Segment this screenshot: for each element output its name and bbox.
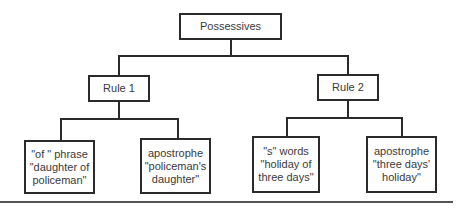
node-rule-2-label: Rule 2 <box>332 81 364 94</box>
node-text-line: "daughter of <box>30 161 90 174</box>
connector-to-rule1 <box>118 55 120 75</box>
bottom-divider <box>0 201 453 203</box>
connector-rule2-horizontal <box>286 117 403 119</box>
node-text-line: policeman" <box>32 174 86 187</box>
node-apostrophe-policeman: apostrophe "policeman's daughter" <box>140 138 211 194</box>
node-text-line: apostrophe <box>148 147 203 160</box>
node-possessives: Possessives <box>179 13 282 40</box>
connector-to-apostrophe-policeman <box>177 118 179 138</box>
connector-level1-horizontal <box>118 55 349 57</box>
node-text-line: "three days' <box>373 158 430 171</box>
node-text-line: "policeman's <box>145 160 207 173</box>
node-text-line: daughter" <box>152 173 199 186</box>
node-rule-2: Rule 2 <box>317 74 379 101</box>
node-text-line: apostrophe <box>374 145 429 158</box>
connector-to-s-words <box>286 117 288 136</box>
connector-rule1-horizontal <box>60 118 179 120</box>
connector-to-rule2 <box>347 55 349 75</box>
node-text-line: holiday" <box>382 171 421 184</box>
possessives-tree-diagram: Possessives Rule 1 Rule 2 "of " phrase "… <box>0 0 473 208</box>
node-rule-1-label: Rule 1 <box>103 82 135 95</box>
node-text-line: "holiday of <box>261 158 312 171</box>
node-s-words: "s" words "holiday of three days" <box>252 136 320 193</box>
node-text-line: "of " phrase <box>31 148 88 161</box>
node-rule-1: Rule 1 <box>88 75 150 102</box>
node-of-phrase: "of " phrase "daughter of policeman" <box>24 140 95 194</box>
node-possessives-label: Possessives <box>200 20 261 33</box>
connector-rule1-down <box>118 102 120 119</box>
node-text-line: three days" <box>258 171 313 184</box>
node-apostrophe-three-days: apostrophe "three days' holiday" <box>366 136 437 193</box>
connector-to-of-phrase <box>60 118 62 140</box>
node-text-line: "s" words <box>263 145 309 158</box>
connector-to-apostrophe-three-days <box>401 117 403 136</box>
